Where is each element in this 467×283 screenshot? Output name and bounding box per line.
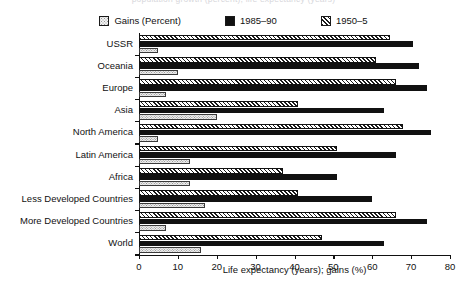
y-tick [135, 232, 139, 233]
legend-item-gains: Gains (Percent) [99, 16, 181, 26]
bar-1950-5 [139, 168, 283, 174]
bar-gains [139, 136, 158, 142]
category-label: Asia [115, 105, 133, 115]
legend-item-1985-90: 1985–90 [225, 16, 277, 26]
bar-gains [139, 48, 158, 54]
y-tick [135, 254, 139, 255]
plot-area: 01020304050607080USSROceaniaEuropeAsiaNo… [139, 33, 450, 255]
bar-1985-90 [139, 241, 384, 247]
category-label: North America [73, 127, 133, 137]
category-label: Oceania [98, 61, 133, 71]
legend-label-gains: Gains (Percent) [114, 16, 181, 26]
y-tick [135, 166, 139, 167]
y-tick [135, 121, 139, 122]
bar-gains [139, 203, 205, 209]
category-label: Less Developed Countries [22, 194, 133, 204]
life-expectancy-bar-chart: population growth (percent); life expect… [0, 0, 467, 283]
bar-1950-5 [139, 35, 390, 41]
legend-label-1950-5: 1950–5 [336, 16, 368, 26]
y-tick [135, 99, 139, 100]
bar-1950-5 [139, 124, 403, 130]
bar-group: Less Developed Countries [139, 190, 450, 212]
legend-label-1985-90: 1985–90 [240, 16, 277, 26]
bar-1950-5 [139, 212, 396, 218]
bar-1985-90 [139, 219, 427, 225]
clipped-title-text: population growth (percent); life expect… [0, 0, 467, 4]
bar-group: World [139, 234, 450, 256]
x-tick [450, 255, 451, 259]
dotted-light-swatch-icon [99, 16, 109, 26]
category-label: Europe [102, 83, 133, 93]
bar-group: Europe [139, 79, 450, 101]
bar-group: North America [139, 123, 450, 145]
bar-1950-5 [139, 101, 298, 107]
diagonal-hatch-swatch-icon [321, 16, 331, 26]
category-label: World [108, 238, 133, 248]
y-tick [135, 77, 139, 78]
bar-1985-90 [139, 196, 372, 202]
bar-1950-5 [139, 57, 376, 63]
legend-item-1950-5: 1950–5 [321, 16, 368, 26]
bar-gains [139, 114, 217, 120]
bar-1985-90 [139, 41, 413, 47]
bar-group: USSR [139, 35, 450, 57]
bar-1985-90 [139, 130, 431, 136]
bar-1985-90 [139, 108, 384, 114]
bar-1985-90 [139, 152, 396, 158]
bar-gains [139, 159, 190, 165]
bar-1985-90 [139, 85, 427, 91]
y-tick [135, 55, 139, 56]
chart-legend: Gains (Percent) 1985–90 1950–5 [0, 14, 467, 28]
bar-1985-90 [139, 174, 337, 180]
bar-1950-5 [139, 235, 322, 241]
y-tick [135, 188, 139, 189]
category-label: Latin America [75, 150, 133, 160]
y-tick [135, 210, 139, 211]
bar-group: Asia [139, 101, 450, 123]
bar-1950-5 [139, 190, 298, 196]
bar-group: More Developed Countries [139, 212, 450, 234]
bar-group: Africa [139, 168, 450, 190]
bar-group: Oceania [139, 57, 450, 79]
bar-gains [139, 247, 201, 253]
bar-1950-5 [139, 79, 396, 85]
bar-gains [139, 225, 166, 231]
bar-gains [139, 181, 190, 187]
category-label: More Developed Countries [20, 216, 133, 226]
category-label: USSR [107, 39, 133, 49]
bar-group: Latin America [139, 146, 450, 168]
bar-gains [139, 92, 166, 98]
solid-black-swatch-icon [225, 16, 235, 26]
y-tick [135, 143, 139, 144]
bar-1985-90 [139, 63, 419, 69]
category-label: Africa [109, 172, 133, 182]
bar-1950-5 [139, 146, 337, 152]
x-axis-title: Life expectancy (years); gains (%) [139, 264, 450, 275]
bar-gains [139, 70, 178, 76]
